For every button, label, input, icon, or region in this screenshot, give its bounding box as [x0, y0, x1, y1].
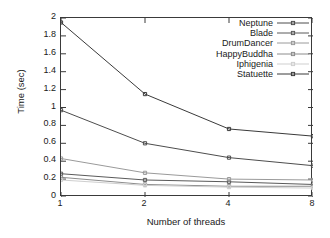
- x-tick-label: 1: [48, 199, 72, 208]
- series-line: [61, 177, 313, 186]
- y-tick-label: 1: [0, 102, 56, 111]
- legend-item-label: HappyBuddha: [216, 49, 276, 59]
- y-tick-label: 1.2: [0, 84, 56, 93]
- legend-item-label: Blade: [250, 28, 276, 38]
- legend-key-swatch: [276, 49, 310, 59]
- legend-item-label: Statuette: [237, 69, 276, 79]
- legend-key-swatch: [276, 69, 310, 79]
- y-tick-label: 1.8: [0, 30, 56, 39]
- legend-key-swatch: [276, 18, 310, 28]
- legend-item: Neptune: [193, 18, 310, 28]
- y-tick-label: 1.6: [0, 48, 56, 57]
- x-tick-label: 4: [216, 199, 240, 208]
- y-tick-label: 0.4: [0, 155, 56, 164]
- legend-item: Blade: [193, 28, 310, 38]
- legend-key-swatch: [276, 38, 310, 48]
- legend-item-label: Iphigenia: [236, 59, 276, 69]
- chart-figure: 00.20.40.60.811.21.41.61.82 Time (sec) 1…: [0, 0, 330, 238]
- y-axis-label: Time (sec): [15, 52, 26, 132]
- chart-legend: NeptuneBladeDrumDancerHappyBuddhaIphigen…: [193, 18, 310, 79]
- x-tick-label: 8: [300, 199, 324, 208]
- x-axis-label: Number of threads: [60, 216, 312, 227]
- y-tick-label: 0.8: [0, 119, 56, 128]
- y-tick-label: 2: [0, 12, 56, 21]
- legend-key-swatch: [276, 28, 310, 38]
- x-tick-label: 2: [132, 199, 156, 208]
- legend-item-label: DrumDancer: [222, 38, 276, 48]
- legend-item-label: Neptune: [239, 18, 276, 28]
- y-tick-label: 1.4: [0, 66, 56, 75]
- y-tick-label: 0.2: [0, 173, 56, 182]
- legend-key-swatch: [276, 59, 310, 69]
- series-line: [61, 110, 313, 165]
- y-tick-label: 0.6: [0, 137, 56, 146]
- legend-item: Iphigenia: [193, 59, 310, 69]
- legend-item: DrumDancer: [193, 38, 310, 48]
- legend-item: HappyBuddha: [193, 49, 310, 59]
- legend-item: Statuette: [193, 69, 310, 79]
